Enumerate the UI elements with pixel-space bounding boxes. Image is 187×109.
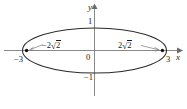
x-tick-label-neg3: −3	[14, 55, 23, 64]
focus-dot-right	[161, 49, 164, 52]
focus-label-right-radicand: 2	[127, 40, 132, 50]
ellipse-figure: y x 1 −1 0 −3 3 −2√2 2√2	[0, 0, 187, 109]
focus-label-left-coefficient: −2	[42, 40, 51, 50]
y-axis-label: y	[88, 3, 92, 12]
y-tick-label-1: 1	[88, 17, 92, 26]
radical-sign-icon: √	[122, 42, 127, 51]
focus-label-right-radical: √2	[122, 40, 132, 50]
focus-label-left-radicand: 2	[56, 40, 61, 50]
focus-dot-left	[25, 49, 28, 52]
radical-sign-icon: √	[51, 42, 56, 51]
ellipse-plot-canvas	[0, 0, 187, 109]
focus-label-left: −2√2	[42, 40, 61, 50]
y-axis-arrowhead	[92, 4, 98, 10]
x-tick-label-3: 3	[166, 55, 170, 64]
y-tick-label-neg1: −1	[84, 73, 93, 82]
x-axis-label: x	[176, 53, 180, 62]
focus-label-left-radical: √2	[51, 40, 61, 50]
origin-label: 0	[86, 53, 90, 62]
focus-label-right: 2√2	[118, 40, 132, 50]
